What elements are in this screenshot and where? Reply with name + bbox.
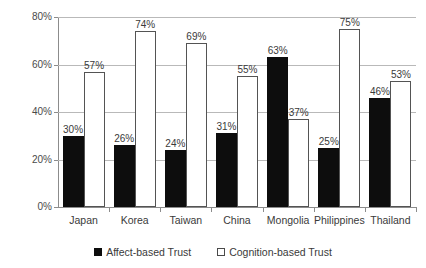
bar-value-label: 24% <box>165 138 185 149</box>
bar-group-taiwan: 24%69% <box>165 17 207 207</box>
x-axis-tick <box>211 207 212 212</box>
bar-value-label: 63% <box>268 45 288 56</box>
category-label-philippines: Philippines <box>314 214 365 226</box>
category-label-taiwan: Taiwan <box>160 214 211 226</box>
bar-group-philippines: 25%75% <box>318 17 360 207</box>
x-axis-tick <box>263 207 264 212</box>
filled-square-icon <box>94 248 102 256</box>
bar-value-label: 57% <box>84 60 104 71</box>
x-axis-tick <box>160 207 161 212</box>
bar-group-china: 31%55% <box>216 17 258 207</box>
x-axis-tick <box>109 207 110 212</box>
legend-label-affect: Affect-based Trust <box>106 246 191 258</box>
bar-thailand-cognition[interactable]: 53% <box>390 81 411 207</box>
legend-item-cognition-based-trust[interactable]: Cognition-based Trust <box>217 246 332 258</box>
bar-mongolia-cognition[interactable]: 37% <box>288 119 309 207</box>
bar-group-japan: 30%57% <box>63 17 105 207</box>
bar-value-label: 46% <box>370 86 390 97</box>
bar-taiwan-affect[interactable]: 24% <box>165 150 186 207</box>
y-tick-label-80: 80% <box>10 12 52 22</box>
x-axis-tick <box>365 207 366 212</box>
y-tick-label-0: 0% <box>10 202 52 212</box>
y-tick-label-60: 60% <box>10 60 52 70</box>
bar-value-label: 26% <box>114 133 134 144</box>
plot-area: 30%57%26%74%24%69%31%55%63%37%25%75%46%5… <box>58 17 416 207</box>
x-axis-tick <box>416 207 417 212</box>
chart-legend: Affect-based Trust Cognition-based Trust <box>0 246 426 258</box>
bar-value-label: 69% <box>186 31 206 42</box>
bar-value-label: 37% <box>289 107 309 118</box>
bar-china-affect[interactable]: 31% <box>216 133 237 207</box>
bar-value-label: 53% <box>391 69 411 80</box>
bar-philippines-cognition[interactable]: 75% <box>339 29 360 207</box>
bar-group-mongolia: 63%37% <box>267 17 309 207</box>
bar-china-cognition[interactable]: 55% <box>237 76 258 207</box>
x-axis-tick <box>314 207 315 212</box>
category-label-korea: Korea <box>109 214 160 226</box>
legend-item-affect-based-trust[interactable]: Affect-based Trust <box>94 246 191 258</box>
bar-korea-affect[interactable]: 26% <box>114 145 135 207</box>
legend-label-cognition: Cognition-based Trust <box>229 246 332 258</box>
bar-value-label: 31% <box>216 121 236 132</box>
y-tick-label-40: 40% <box>10 107 52 117</box>
hollow-square-icon <box>217 248 225 256</box>
bar-korea-cognition[interactable]: 74% <box>135 31 156 207</box>
bar-value-label: 25% <box>319 136 339 147</box>
bar-taiwan-cognition[interactable]: 69% <box>186 43 207 207</box>
bar-japan-affect[interactable]: 30% <box>63 136 84 207</box>
bar-japan-cognition[interactable]: 57% <box>84 72 105 207</box>
bar-value-label: 75% <box>340 17 360 28</box>
gridline-baseline-0 <box>58 207 416 208</box>
category-label-china: China <box>211 214 262 226</box>
category-label-japan: Japan <box>58 214 109 226</box>
category-label-thailand: Thailand <box>365 214 416 226</box>
bar-group-korea: 26%74% <box>114 17 156 207</box>
category-label-mongolia: Mongolia <box>263 214 314 226</box>
bar-chart: 80% 60% 40% 20% 0% 30%57%26%74%24%69%31%… <box>0 0 426 268</box>
bar-mongolia-affect[interactable]: 63% <box>267 57 288 207</box>
bar-value-label: 74% <box>135 19 155 30</box>
bar-thailand-affect[interactable]: 46% <box>369 98 390 207</box>
bar-value-label: 30% <box>63 124 83 135</box>
bar-group-thailand: 46%53% <box>369 17 411 207</box>
bar-philippines-affect[interactable]: 25% <box>318 148 339 207</box>
y-tick-label-20: 20% <box>10 155 52 165</box>
bar-value-label: 55% <box>237 64 257 75</box>
